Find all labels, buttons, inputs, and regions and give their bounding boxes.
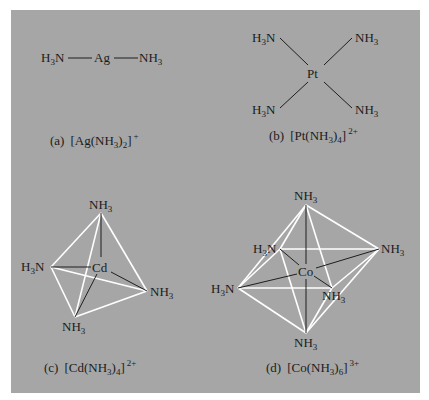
- ligand-nh3-top: NH3: [89, 197, 113, 214]
- figure-a-linear-ag: H3N Ag NH3 (a)[Ag(NH3)2]+: [41, 50, 163, 150]
- bond-pt-ll: [280, 82, 308, 108]
- figure-b-square-planar-pt: H3N NH3 Pt H3N NH3 (b)[Pt(NH3)4]2+: [252, 30, 379, 145]
- coordination-geometries-diagram: H3N Ag NH3 (a)[Ag(NH3)2]+ H3N NH3 Pt H3N…: [0, 0, 429, 400]
- ligand-nh3-right: NH3: [139, 50, 163, 67]
- ligand-nh3-bottom: NH3: [62, 319, 86, 336]
- bond-pt-ul: [280, 38, 308, 65]
- ligand-h3n-left: H3N: [211, 281, 235, 298]
- figure-c-tetrahedral-cd: NH3 H3N Cd NH3 NH3 (c)[Cd(NH3)4]2+: [21, 197, 174, 377]
- edge: [51, 267, 75, 317]
- bond-co-right: [316, 249, 379, 268]
- caption-d: (d)[Co(NH3)6]3+: [266, 358, 359, 377]
- ligand-h3n-left: H3N: [21, 259, 45, 276]
- ligand-nh3-right: NH3: [381, 241, 405, 258]
- ligand-h3n-lower-left: H3N: [252, 102, 276, 119]
- figure-d-octahedral-co: NH3 H3N NH3 Co H3N NH3 NH3 (d)[Co(NH3)6]…: [211, 188, 405, 377]
- edge: [280, 249, 306, 333]
- ligand-nh3-upper-right: NH3: [355, 30, 379, 47]
- edge: [332, 249, 379, 288]
- caption-b: (b)[Pt(NH3)4]2+: [269, 126, 358, 145]
- ligand-nh3-bottom: NH3: [294, 335, 318, 352]
- central-atom-pt: Pt: [307, 66, 318, 81]
- bond-pt-ur: [324, 38, 352, 65]
- edge: [306, 249, 379, 333]
- ligand-nh3-right: NH3: [150, 284, 174, 301]
- ligand-nh3-top: NH3: [294, 188, 318, 205]
- ligand-h3n-upper-left: H3N: [252, 30, 276, 47]
- ligand-h3n-back-left: H3N: [253, 241, 277, 258]
- edge: [238, 288, 306, 333]
- bond-pt-lr: [324, 82, 352, 108]
- central-atom-co: Co: [298, 264, 313, 279]
- caption-a: (a)[Ag(NH3)2]+: [50, 131, 139, 150]
- ligand-nh3-lower-right: NH3: [355, 102, 379, 119]
- ligand-h3n-left: H3N: [41, 50, 65, 67]
- edge: [280, 205, 306, 249]
- caption-c: (c)[Cd(NH3)4]2+: [44, 358, 136, 377]
- central-atom-cd: Cd: [92, 260, 108, 275]
- central-atom-ag: Ag: [94, 50, 110, 65]
